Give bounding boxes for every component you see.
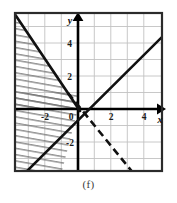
x-tick-label-2: 2 [109, 112, 114, 122]
y-axis-label: y [67, 15, 73, 26]
figure-caption: (f) [0, 178, 177, 190]
y-tick-label-2: 2 [67, 72, 72, 82]
y-tick-label-4: 4 [67, 39, 72, 49]
graph-figure: 4 2 -2 -2 2 4 0 y x (f) [0, 0, 177, 203]
y-tick-label-neg2: -2 [66, 138, 74, 148]
x-tick-label-neg2: -2 [41, 112, 49, 122]
x-axis-label: x [157, 114, 163, 125]
coordinate-plane: 4 2 -2 -2 2 4 0 y x [0, 0, 177, 203]
x-tick-label-4: 4 [142, 112, 147, 122]
origin-label: 0 [69, 112, 74, 122]
